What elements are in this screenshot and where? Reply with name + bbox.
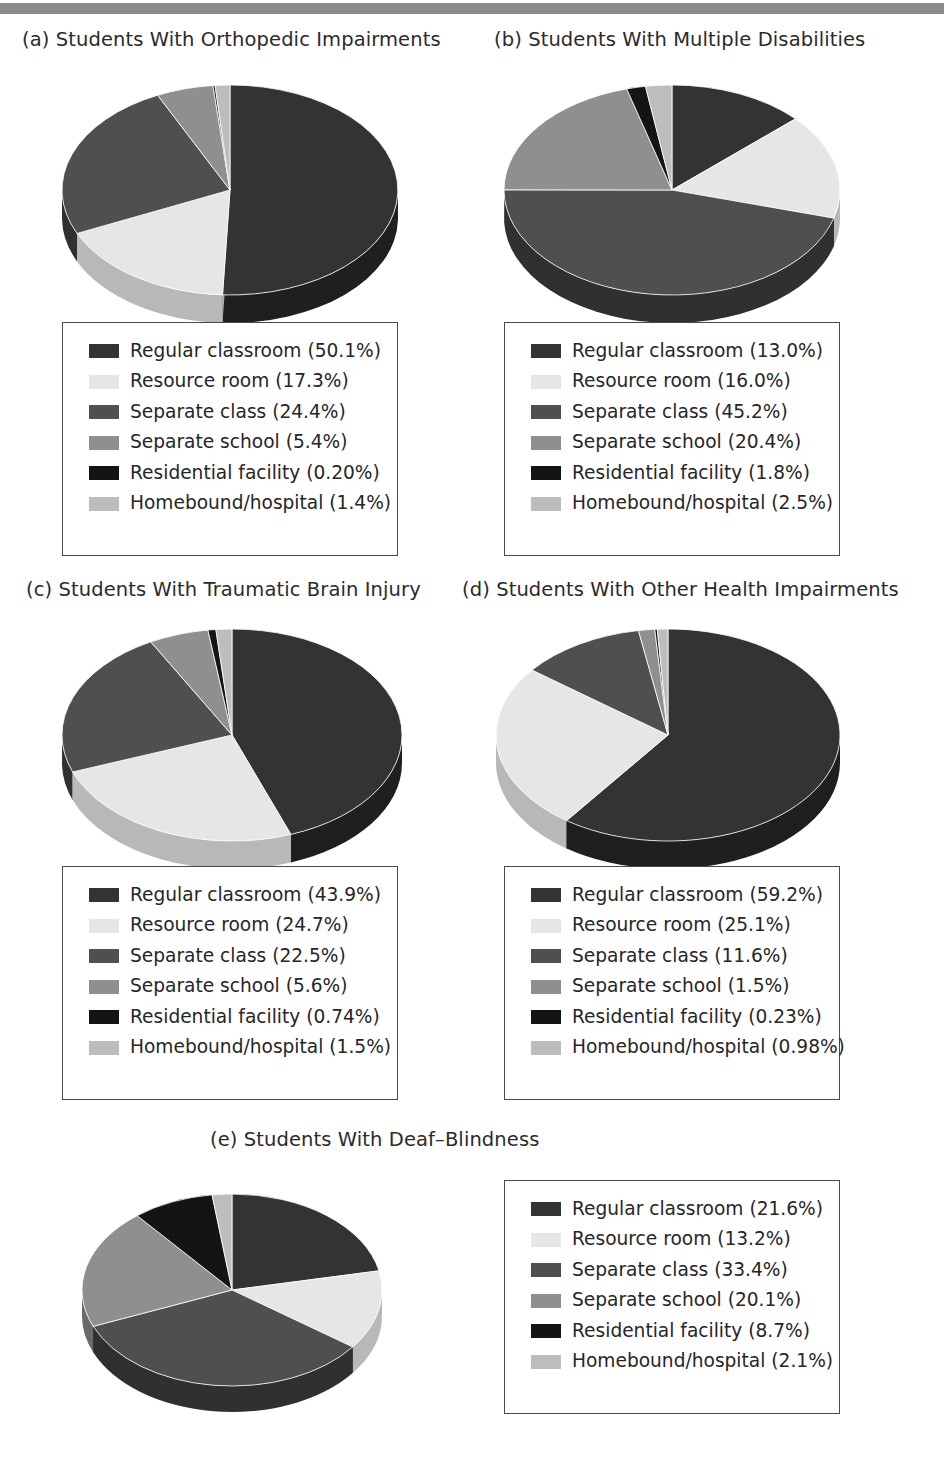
legend-label-resource-room: Resource room (13.2%) (572, 1230, 791, 1249)
legend-label-separate-school: Separate school (20.1%) (572, 1291, 801, 1310)
legend-swatch-regular-classroom (531, 1202, 561, 1216)
legend-item-residential-facility[interactable]: Residential facility (8.7%) (531, 1316, 833, 1347)
legend-item-homebound-hospital[interactable]: Homebound/hospital (2.1%) (531, 1347, 833, 1378)
legend-swatch-separate-class (531, 1263, 561, 1277)
legend-label-separate-class: Separate class (33.4%) (572, 1261, 788, 1280)
legend-swatch-resource-room (531, 1233, 561, 1247)
legend-swatch-homebound-hospital (531, 1355, 561, 1369)
pie-chart-e (74, 1186, 390, 1420)
legend-item-regular-classroom[interactable]: Regular classroom (21.6%) (531, 1194, 833, 1225)
panel-e: (e) Students With Deaf–BlindnessRegular … (0, 0, 944, 1470)
legend-list-e: Regular classroom (21.6%)Resource room (… (531, 1194, 833, 1377)
legend-swatch-residential-facility (531, 1324, 561, 1338)
legend-item-separate-class[interactable]: Separate class (33.4%) (531, 1255, 833, 1286)
legend-label-regular-classroom: Regular classroom (21.6%) (572, 1200, 823, 1219)
panel-title-e: (e) Students With Deaf–Blindness (210, 1128, 539, 1151)
legend-label-homebound-hospital: Homebound/hospital (2.1%) (572, 1352, 833, 1371)
legend-item-separate-school[interactable]: Separate school (20.1%) (531, 1286, 833, 1317)
legend-swatch-separate-school (531, 1294, 561, 1308)
legend-label-residential-facility: Residential facility (8.7%) (572, 1322, 810, 1341)
legend-item-resource-room[interactable]: Resource room (13.2%) (531, 1225, 833, 1256)
legend-box-e: Regular classroom (21.6%)Resource room (… (504, 1180, 840, 1414)
